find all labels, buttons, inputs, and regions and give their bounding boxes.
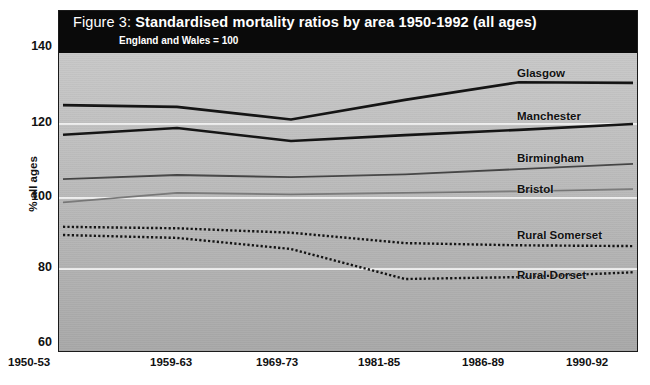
series-label-bristol: Bristol xyxy=(517,183,553,195)
x-tick-1986-89: 1986-89 xyxy=(462,356,504,368)
x-tick-1981-85: 1981-85 xyxy=(358,356,400,368)
series-label-birmingham: Birmingham xyxy=(517,152,584,164)
y-tick-80: 80 xyxy=(8,260,52,274)
series-line-birmingham xyxy=(63,164,633,179)
y-tick-60: 60 xyxy=(8,335,52,349)
series-line-manchester xyxy=(63,124,633,141)
figure-title: Standardised mortality ratios by area 19… xyxy=(135,14,537,30)
y-tick-140: 140 xyxy=(8,39,52,53)
series-label-rural-dorset: Rural Dorset xyxy=(517,269,586,281)
x-tick-1969-73: 1969-73 xyxy=(256,356,298,368)
figure-number: Figure 3: xyxy=(73,14,131,30)
x-tick-1959-63: 1959-63 xyxy=(150,356,192,368)
figure-subtitle: England and Wales = 100 xyxy=(119,35,238,46)
series-lines xyxy=(59,11,637,351)
series-label-glasgow: Glasgow xyxy=(517,67,565,79)
x-tick-1950-53: 1950-53 xyxy=(8,356,50,368)
figure-title-line: Figure 3: Standardised mortality ratios … xyxy=(73,14,537,30)
y-tick-120: 120 xyxy=(8,115,52,129)
series-label-manchester: Manchester xyxy=(517,110,581,122)
title-banner: Figure 3: Standardised mortality ratios … xyxy=(59,11,637,53)
x-tick-1990-92: 1990-92 xyxy=(566,356,608,368)
series-label-rural-somerset: Rural Somerset xyxy=(517,229,602,241)
plot-area: Glasgow Manchester Birmingham Bristol Ru… xyxy=(58,10,638,352)
chart-figure: 140 120 100 80 60 % all ages 1950-53 195… xyxy=(0,0,650,385)
y-axis-label: % all ages xyxy=(27,139,39,229)
